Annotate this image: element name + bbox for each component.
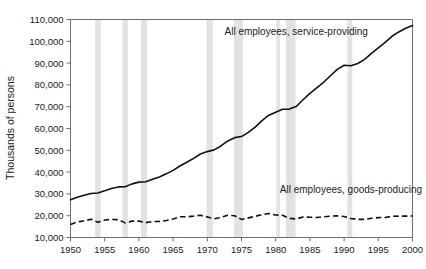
y-tick-labels-group: 10,00020,00030,00040,00050,00060,00070,0… (29, 14, 63, 243)
y-axis-title: Thousands of persons (4, 76, 16, 180)
x-tick-label: 1970 (197, 244, 218, 255)
x-tick-label: 1975 (231, 244, 252, 255)
recession-band-4 (234, 20, 243, 238)
recession-band-3 (207, 20, 213, 238)
annotations-group: All employees, service-providingAll empl… (225, 26, 423, 195)
recession-bands-group (95, 20, 352, 238)
y-tick-label: 50,000 (34, 145, 63, 156)
y-tick-label: 80,000 (34, 79, 63, 90)
y-tick-label: 70,000 (34, 101, 63, 112)
y-tick-label: 60,000 (34, 123, 63, 134)
x-tick-marks-group (71, 238, 413, 242)
x-tick-label: 1965 (163, 244, 184, 255)
y-tick-label: 30,000 (34, 188, 63, 199)
recession-band-0 (95, 20, 100, 238)
x-tick-label: 1985 (299, 244, 320, 255)
y-tick-label: 40,000 (34, 167, 63, 178)
y-tick-label: 110,000 (30, 14, 64, 25)
recession-band-5 (276, 20, 279, 238)
recession-band-7 (348, 20, 353, 238)
x-tick-label: 1980 (265, 244, 286, 255)
recession-band-6 (286, 20, 296, 238)
x-tick-label: 1950 (60, 244, 81, 255)
series-annotation-0: All employees, service-providing (225, 26, 368, 37)
x-tick-label: 1995 (368, 244, 389, 255)
recession-band-2 (141, 20, 147, 238)
x-tick-label: 1955 (94, 244, 115, 255)
y-tick-marks-group (67, 20, 71, 238)
x-tick-label: 2000 (402, 244, 423, 255)
x-tick-labels-group: 1950195519601965197019751980198519901995… (60, 244, 423, 255)
series-annotation-1: All employees, goods-producing (280, 184, 422, 195)
x-tick-label: 1990 (334, 244, 355, 255)
x-tick-label: 1960 (128, 244, 149, 255)
y-tick-label: 90,000 (34, 58, 63, 69)
chart-container: 10,00020,00030,00040,00050,00060,00070,0… (0, 0, 426, 269)
y-tick-label: 10,000 (34, 232, 63, 243)
recession-band-1 (122, 20, 127, 238)
y-tick-label: 100,000 (29, 36, 63, 47)
employment-line-chart: 10,00020,00030,00040,00050,00060,00070,0… (0, 0, 426, 269)
y-tick-label: 20,000 (34, 210, 63, 221)
